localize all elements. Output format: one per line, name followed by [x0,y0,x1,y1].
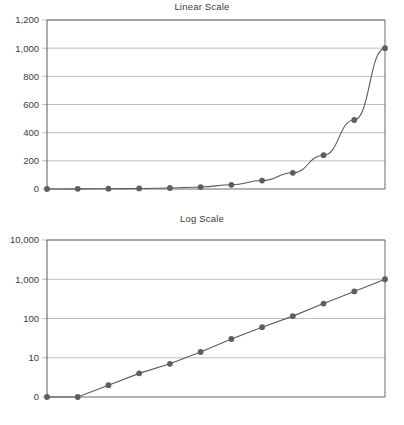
data-point-marker [259,178,265,184]
data-point-marker [382,45,388,51]
linear-scale-chart-panel: Linear Scale 1,2001,0008006004002000 [0,0,404,210]
data-point-marker [228,182,234,188]
data-point-marker [259,324,265,330]
chart-page: Linear Scale 1,2001,0008006004002000 Log… [0,0,404,425]
y-axis-tick-label: 100 [23,313,39,324]
data-point-marker [198,349,204,355]
data-point-marker [290,313,296,319]
data-point-marker [351,289,357,295]
y-axis-tick-label: 10 [28,352,39,363]
linear-scale-plot: 1,2001,0008006004002000 [0,0,404,210]
y-axis-tick-label: 10,000 [10,234,39,245]
y-axis-tick-label: 800 [23,71,39,82]
y-axis-tick-label: 0 [34,391,39,402]
data-point-marker [351,117,357,123]
data-point-marker [167,361,173,367]
data-point-marker [75,186,81,192]
data-point-marker [106,382,112,388]
data-point-marker [44,186,50,192]
y-axis-tick-label: 600 [23,99,39,110]
y-axis-tick-label: 400 [23,127,39,138]
data-point-marker [167,185,173,191]
y-axis-tick-label: 1,000 [15,43,39,54]
y-axis-tick-label: 1,000 [15,274,39,285]
data-point-marker [382,276,388,282]
data-point-marker [136,370,142,376]
log-scale-chart-panel: Log Scale 10,0001,000100100 [0,212,404,425]
data-point-marker [198,184,204,190]
y-axis-tick-label: 1,200 [15,14,39,25]
data-point-marker [136,186,142,192]
data-point-marker [228,336,234,342]
y-axis-tick-label: 0 [34,183,39,194]
data-point-marker [290,170,296,176]
data-point-marker [321,152,327,158]
y-axis-tick-label: 200 [23,155,39,166]
data-point-marker [321,301,327,307]
log-scale-plot: 10,0001,000100100 [0,212,404,425]
data-point-marker [106,186,112,192]
data-series-line [47,48,385,189]
data-series-line [47,279,385,397]
data-point-marker [44,394,50,400]
data-point-marker [75,394,81,400]
